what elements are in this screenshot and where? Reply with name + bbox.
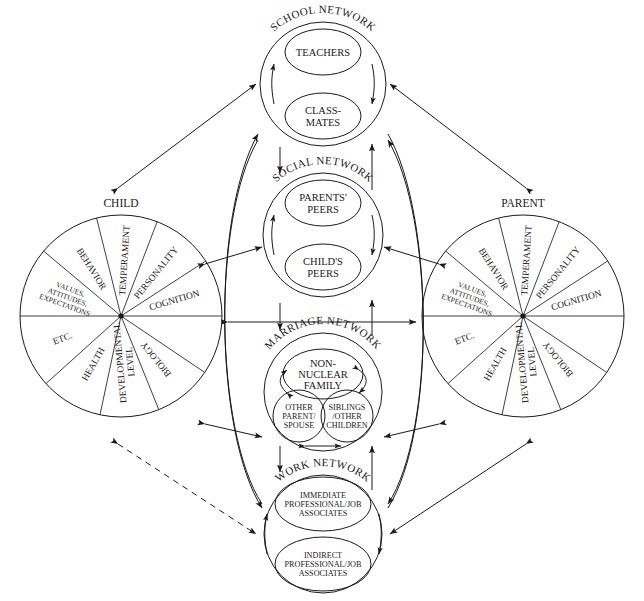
network-marriage-boundary <box>264 333 382 451</box>
wheel-parent-segment-label: PERSONALITY <box>534 245 582 301</box>
connector-child-social <box>205 247 262 264</box>
node-parents-peers-label: PEERS <box>307 204 339 215</box>
wheel-parent[interactable]: COGNITIONPERSONALITYTEMPERAMENTBEHAVIORV… <box>422 197 624 417</box>
connector-parent-marriage <box>384 424 439 437</box>
wheel-parent-segment[interactable]: DEVELOPMENTALLEVEL <box>513 321 540 404</box>
node-indirect-associates-label: PROFESSIONAL/JOB <box>285 560 362 569</box>
arrow-marriage-left <box>280 370 287 393</box>
network-marriage[interactable]: MARRIAGE NETWORKNON-NUCLEARFAMILYOTHERPA… <box>255 314 391 451</box>
node-classmates-label: MATES <box>306 117 341 128</box>
connector-school-to-work-left-return <box>225 140 262 508</box>
wheel-parent-segment-label: BEHAVIOR <box>477 246 511 292</box>
arrow-school-left-up <box>272 64 274 104</box>
wheel-parent-segment[interactable]: TEMPERAMENT <box>519 225 533 296</box>
arrow-school-right-down <box>372 64 374 104</box>
node-parents-peers-label: PARENTS' <box>299 192 347 203</box>
node-siblings-other-children-label: /OTHER <box>332 412 362 421</box>
wheel-parent-title: PARENT <box>501 197 545 209</box>
wheel-parent-segment[interactable]: ETC. <box>453 330 475 347</box>
connector-parent-work <box>390 444 526 534</box>
wheel-parent-segment-label: HEALTH <box>482 346 509 383</box>
wheel-parent-segment-label: LEVEL <box>526 346 539 377</box>
wheel-parent-hub <box>520 313 525 318</box>
node-other-parent-spouse-label: OTHER <box>285 403 313 412</box>
wheel-parent-segment-label: COGNITION <box>550 288 603 312</box>
node-immediate-associates-label: PROFESSIONAL/JOB <box>285 500 362 509</box>
node-non-nuclear-family-label: NON- <box>310 358 337 369</box>
wheel-child-segment[interactable]: BEHAVIOR <box>75 246 109 292</box>
network-social[interactable]: SOCIAL NETWORKPARENTS'PEERSCHILD'SPEERS <box>254 154 392 297</box>
node-childs-peers-label: CHILD'S <box>303 256 343 267</box>
wheel-child-segment-label: ETC. <box>51 330 73 347</box>
node-immediate-associates-label: ASSOCIATES <box>299 509 348 518</box>
node-siblings-other-children-label: SIBLINGS <box>329 403 366 412</box>
wheel-child-segment-label: HEALTH <box>80 346 107 383</box>
arrow-social-right-down <box>372 215 374 255</box>
network-work[interactable]: WORK NETWORKIMMEDIATEPROFESSIONAL/JOBASS… <box>255 456 391 593</box>
connector-child-school <box>118 84 256 188</box>
wheel-parent-segment[interactable]: BEHAVIOR <box>477 246 511 292</box>
connector-work-to-school-right-return <box>388 140 423 508</box>
wheel-parent-segment-label: ETC. <box>453 330 475 347</box>
wheel-child-segment[interactable]: PERSONALITY <box>132 245 180 301</box>
wheel-child-segment[interactable]: TEMPERAMENT <box>117 225 131 296</box>
network-work-title: WORK NETWORK <box>273 456 374 484</box>
wheel-child-segment[interactable]: VALUES,ATTITUDES,EXPECTATIONS <box>38 276 97 319</box>
wheel-child-segment-label: LEVEL <box>124 346 137 377</box>
wheel-child-spoke <box>97 218 121 316</box>
wheel-child-segment-label: PERSONALITY <box>132 245 180 301</box>
connector-work-to-school-left <box>225 134 262 504</box>
node-siblings-other-children-label: CHILDREN <box>326 421 367 430</box>
arrow-social-left-up <box>272 215 274 255</box>
wheel-child-segment-label: BEHAVIOR <box>75 246 109 292</box>
wheel-parent-spoke <box>499 218 523 316</box>
node-childs-peers-label: PEERS <box>307 268 339 279</box>
wheel-parent-segment[interactable]: HEALTH <box>482 346 509 383</box>
node-indirect-associates-label: INDIRECT <box>304 551 342 560</box>
wheel-child-segment[interactable]: COGNITION <box>148 288 201 312</box>
wheel-parent-segment[interactable]: PERSONALITY <box>534 245 582 301</box>
node-non-nuclear-family-label: FAMILY <box>304 380 343 391</box>
wheel-child-segment[interactable]: DEVELOPMENTALLEVEL <box>111 321 138 404</box>
wheel-child-segment[interactable]: ETC. <box>51 330 73 347</box>
connector-parent-social <box>384 247 439 264</box>
connector-child-work <box>118 444 256 534</box>
connector-parent-school <box>390 84 526 188</box>
node-classmates-label: CLASS- <box>305 105 342 116</box>
diagram-canvas: SCHOOL NETWORKTEACHERSCLASS-MATESSOCIAL … <box>0 0 644 601</box>
social-network-diagram: SCHOOL NETWORKTEACHERSCLASS-MATESSOCIAL … <box>0 0 644 601</box>
node-teachers-label: TEACHERS <box>296 47 350 58</box>
node-other-parent-spouse-label: PARENT/ <box>282 412 316 421</box>
node-non-nuclear-family-label: NUCLEAR <box>298 369 348 380</box>
wheel-child-segment[interactable]: HEALTH <box>80 346 107 383</box>
node-other-parent-spouse-label: SPOUSE <box>284 421 315 430</box>
node-immediate-associates-label: IMMEDIATE <box>300 491 346 500</box>
wheel-child-title: CHILD <box>103 197 138 209</box>
connector-school-to-work-right <box>388 134 423 504</box>
wheel-parent-segment[interactable]: COGNITION <box>550 288 603 312</box>
wheel-parent-segment[interactable]: VALUES,ATTITUDES,EXPECTATIONS <box>440 276 499 319</box>
node-indirect-associates-label: ASSOCIATES <box>299 569 348 578</box>
wheel-parent-segment-label: TEMPERAMENT <box>519 225 533 296</box>
wheel-child-hub <box>118 313 123 318</box>
wheel-child-segment-label: TEMPERAMENT <box>117 225 131 296</box>
wheel-child[interactable]: COGNITIONPERSONALITYTEMPERAMENTBEHAVIORV… <box>20 197 222 417</box>
wheel-child-segment-label: COGNITION <box>148 288 201 312</box>
